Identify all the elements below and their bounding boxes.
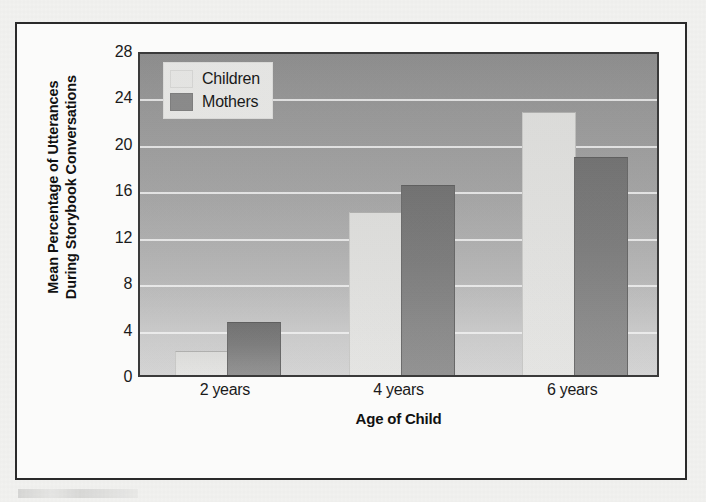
bar-chart: Mean Percentage of Utterances During Sto… <box>17 24 685 478</box>
y-tick-28: 28 <box>77 43 132 61</box>
y-axis-title: Mean Percentage of Utterances During Sto… <box>44 37 80 337</box>
y-tick-20: 20 <box>77 136 132 154</box>
bar-children-6-years <box>522 112 576 375</box>
x-tick-6-years: 6 years <box>492 381 652 399</box>
legend-label-children: Children <box>202 70 260 88</box>
y-axis-title-line1: Mean Percentage of Utterances <box>44 37 62 337</box>
page-bleed-artifact <box>18 489 138 498</box>
x-axis-title: Age of Child <box>138 410 659 427</box>
bar-children-4-years <box>349 212 403 376</box>
x-tick-2-years: 2 years <box>145 381 305 399</box>
scanned-page: Mean Percentage of Utterances During Sto… <box>0 0 706 502</box>
legend-label-mothers: Mothers <box>202 93 258 111</box>
gridline-20 <box>140 146 657 148</box>
bar-mothers-4-years <box>401 185 455 375</box>
legend-item-children: Children <box>170 67 260 90</box>
figure-frame: Mean Percentage of Utterances During Sto… <box>15 22 687 480</box>
children-swatch-icon <box>170 70 193 88</box>
y-tick-0: 0 <box>77 368 132 386</box>
y-tick-4: 4 <box>77 322 132 340</box>
bar-children-2-years <box>175 351 229 375</box>
plot-area: Children Mothers <box>138 52 659 377</box>
bar-mothers-2-years <box>227 322 281 375</box>
chart-legend: Children Mothers <box>163 62 273 119</box>
y-axis-tick-labels: 0481216202428 <box>77 52 132 377</box>
x-axis-tick-labels: 2 years4 years6 years <box>138 381 659 405</box>
bar-mothers-6-years <box>574 157 628 375</box>
mothers-swatch-icon <box>170 93 193 111</box>
legend-item-mothers: Mothers <box>170 90 260 113</box>
y-tick-8: 8 <box>77 275 132 293</box>
y-tick-16: 16 <box>77 182 132 200</box>
x-tick-4-years: 4 years <box>319 381 479 399</box>
y-tick-12: 12 <box>77 229 132 247</box>
y-tick-24: 24 <box>77 89 132 107</box>
